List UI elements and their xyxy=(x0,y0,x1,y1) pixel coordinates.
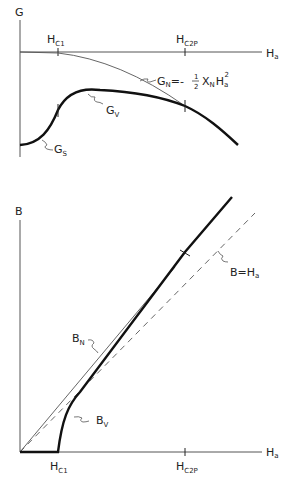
svg-text:B=Ha: B=Ha xyxy=(230,266,259,280)
b-x-axis-label: Ha xyxy=(266,446,279,460)
bv-leader xyxy=(74,417,89,422)
svg-text:Ha: Ha xyxy=(266,47,279,61)
gibbs-energy-plot: G Ha HC1 HC2P GN=- 1 2 XNHa2 GV xyxy=(15,6,279,158)
g-x-axis-label: Ha xyxy=(266,47,279,61)
svg-text:BN: BN xyxy=(72,332,85,347)
bv-label: BV xyxy=(96,414,109,429)
gs-leader xyxy=(42,140,53,150)
diagram-canvas: G Ha HC1 HC2P GN=- 1 2 XNHa2 GV xyxy=(0,0,298,488)
g-axis-label: G xyxy=(15,6,24,19)
svg-text:GN=-: GN=- xyxy=(157,75,184,89)
hc1-label: HC1 xyxy=(47,33,65,48)
gv-curve xyxy=(20,89,238,145)
gn-label: GN=- 1 2 XNHa2 xyxy=(157,71,229,91)
induction-plot: B Ha HC1 HC2P B=Ha BN BV xyxy=(15,197,279,475)
b-equals-ha-line xyxy=(20,213,255,452)
b-equals-ha-label: B=Ha xyxy=(230,266,259,280)
svg-text:HC2P: HC2P xyxy=(176,460,198,475)
b-axis-label: B xyxy=(15,205,23,218)
svg-text:Ha: Ha xyxy=(266,446,279,460)
svg-text:2: 2 xyxy=(194,83,198,91)
svg-text:XNHa2: XNHa2 xyxy=(202,71,229,89)
gv-leader xyxy=(88,94,103,104)
svg-text:HC1: HC1 xyxy=(50,460,68,475)
svg-text:GV: GV xyxy=(106,104,120,119)
gs-label: GS xyxy=(54,143,68,158)
svg-text:1: 1 xyxy=(194,73,198,81)
svg-text:GS: GS xyxy=(54,143,68,158)
b-hc1-label: HC1 xyxy=(50,460,68,475)
svg-text:HC1: HC1 xyxy=(47,33,65,48)
svg-text:BV: BV xyxy=(96,414,109,429)
hc2p-label: HC2P xyxy=(176,33,198,48)
bn-leader xyxy=(88,340,98,353)
b-equals-ha-leader xyxy=(218,251,228,262)
gv-label: GV xyxy=(106,104,120,119)
bn-label: BN xyxy=(72,332,85,347)
b-hc2p-label: HC2P xyxy=(176,460,198,475)
svg-text:HC2P: HC2P xyxy=(176,33,198,48)
